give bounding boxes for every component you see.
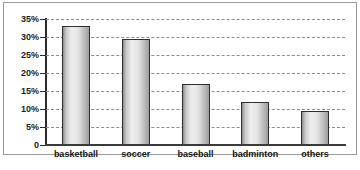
y-tick-label: 25% [3, 51, 39, 60]
gridline [46, 55, 345, 56]
plot-area [46, 19, 345, 145]
bar-soccer [122, 39, 150, 145]
bar-badminton [241, 102, 269, 145]
x-tick-label-baseball: baseball [166, 149, 226, 159]
y-tick-label: 0 [3, 141, 39, 150]
gridline [46, 73, 345, 74]
y-tick-label: 15% [3, 87, 39, 96]
bar-baseball [182, 84, 210, 145]
gridline [46, 19, 345, 20]
bar-chart: 35%30%25%20%15%10%5%0 basketballsoccerba… [0, 0, 360, 170]
y-tick-label: 10% [3, 105, 39, 114]
y-tick-label: 30% [3, 33, 39, 42]
bar-others [301, 111, 329, 145]
y-tick-label: 35% [3, 15, 39, 24]
x-tick-label-others: others [285, 149, 345, 159]
y-tick-label: 20% [3, 69, 39, 78]
x-axis-line [45, 144, 346, 146]
y-tick-label: 5% [3, 123, 39, 132]
gridline [46, 37, 345, 38]
x-tick-label-badminton: badminton [225, 149, 285, 159]
x-tick-label-basketball: basketball [46, 149, 106, 159]
x-tick-label-soccer: soccer [106, 149, 166, 159]
y-axis-labels: 35%30%25%20%15%10%5%0 [0, 0, 39, 170]
bar-basketball [62, 26, 90, 145]
